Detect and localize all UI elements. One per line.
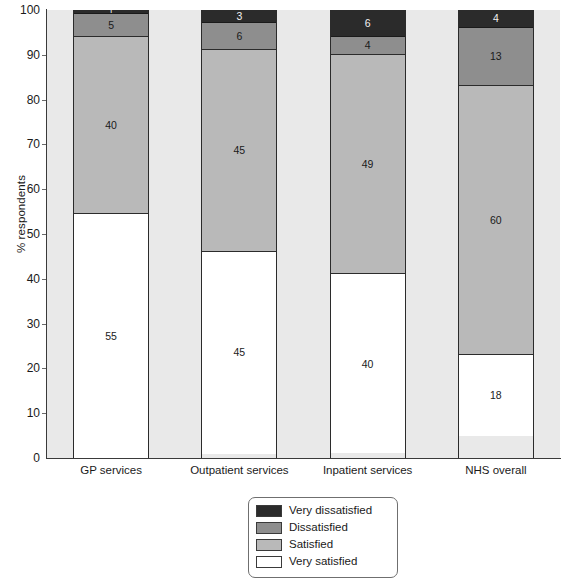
plot-area: 1540553645456449404136018 (47, 10, 560, 458)
bar: 364545 (201, 10, 277, 458)
legend-swatch (256, 522, 282, 534)
y-axis-tick-label: 100 (0, 4, 40, 16)
bar-segment: 5 (74, 14, 148, 36)
bar: 644940 (330, 10, 406, 458)
bar-segment: 49 (331, 55, 405, 275)
bar-segment: 55 (74, 214, 148, 458)
legend-swatch (256, 505, 282, 517)
legend-swatch (256, 539, 282, 551)
legend-label: Very satisfied (289, 556, 357, 568)
bar-segment: 3 (202, 10, 276, 23)
y-axis-tick-label: 40 (0, 273, 40, 285)
bar-segment: 60 (459, 86, 533, 355)
bar-segment-value: 13 (490, 51, 502, 62)
bar-segment: 45 (202, 252, 276, 454)
bar-segment: 40 (331, 274, 405, 453)
legend: Very dissatisfiedDissatisfiedSatisfiedVe… (248, 497, 398, 578)
bar-segment: 6 (202, 23, 276, 50)
bar-segment-value: 45 (234, 347, 246, 358)
bar-segment: 4 (331, 37, 405, 55)
bar-segment-value: 3 (236, 11, 242, 22)
bar-segment-value: 40 (362, 359, 374, 370)
y-axis-tick-label: 30 (0, 318, 40, 330)
legend-item: Very satisfied (256, 554, 390, 570)
x-axis-tick-label: Inpatient services (323, 464, 413, 476)
bar-segment: 18 (459, 355, 533, 436)
bar: 4136018 (458, 10, 534, 458)
legend-swatch (256, 556, 282, 568)
x-axis-tick-label: GP services (80, 464, 142, 476)
legend-label: Dissatisfied (289, 522, 348, 534)
bar-segment-value: 4 (493, 13, 499, 24)
legend-label: Satisfied (289, 539, 333, 551)
bar-segment-value: 5 (108, 20, 114, 31)
legend-items: Very dissatisfiedDissatisfiedSatisfiedVe… (256, 503, 390, 570)
legend-item: Very dissatisfied (256, 503, 390, 519)
bar-segment-value: 18 (490, 390, 502, 401)
y-axis-tick-label: 20 (0, 362, 40, 374)
bar-segment: 6 (331, 10, 405, 37)
bar-segment: 13 (459, 28, 533, 86)
bar: 154055 (73, 10, 149, 458)
x-axis-line (46, 458, 561, 459)
y-axis-tick-label: 10 (0, 407, 40, 419)
bar-segment-value: 45 (234, 145, 246, 156)
bar-segment-value: 4 (365, 40, 371, 51)
legend-item: Satisfied (256, 537, 390, 553)
legend-label: Very dissatisfied (289, 505, 372, 517)
bar-segment-value: 55 (105, 331, 117, 342)
bar-segment-value: 6 (236, 31, 242, 42)
y-axis-tick-label: 70 (0, 138, 40, 150)
y-axis-tick-label: 90 (0, 49, 40, 61)
bar-segment-value: 40 (105, 120, 117, 131)
y-axis-tick-label: 80 (0, 94, 40, 106)
bar-segment: 4 (459, 10, 533, 28)
bar-segment-value: 49 (362, 159, 374, 170)
legend-item: Dissatisfied (256, 520, 390, 536)
bar-segment-value: 60 (490, 215, 502, 226)
bar-segment: 40 (74, 37, 148, 214)
y-axis-tick-label: 60 (0, 183, 40, 195)
y-axis-tick-label: 0 (0, 452, 40, 464)
x-axis-tick-label: Outpatient services (190, 464, 288, 476)
bar-segment-value: 6 (365, 18, 371, 29)
bar-segment: 45 (202, 50, 276, 252)
x-axis-tick-label: NHS overall (465, 464, 526, 476)
y-axis-tick-label: 50 (0, 228, 40, 240)
